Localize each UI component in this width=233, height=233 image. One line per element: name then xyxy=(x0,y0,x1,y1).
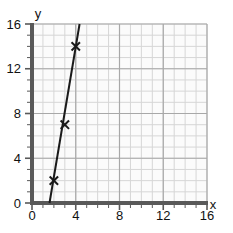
y-tick-label: 0 xyxy=(14,196,21,211)
y-tick-label: 8 xyxy=(14,106,21,121)
chart-container: 0481216 0481216 x y xyxy=(0,0,233,233)
x-axis-label: x xyxy=(210,197,217,212)
coordinate-plane-graph: 0481216 0481216 x y xyxy=(0,0,233,233)
y-tick-label: 4 xyxy=(14,151,21,166)
x-tick-label: 0 xyxy=(28,208,35,223)
x-tick-label: 8 xyxy=(116,208,123,223)
y-tick-label: 12 xyxy=(7,61,21,76)
x-tick-label: 12 xyxy=(156,208,170,223)
x-tick-label: 4 xyxy=(72,208,79,223)
y-axis-label: y xyxy=(35,6,42,21)
y-tick-label: 16 xyxy=(7,17,21,32)
